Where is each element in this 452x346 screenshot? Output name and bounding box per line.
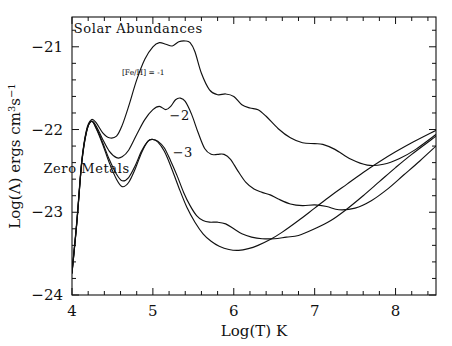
- plot-canvas: 45678Log(T) K−21−22−23−24Log(Λ) ergs cm3…: [0, 0, 452, 346]
- y-tick-label: −21: [31, 38, 63, 56]
- plot-frame: [72, 17, 436, 295]
- curve-4: [72, 121, 436, 273]
- cooling-function-figure: 45678Log(T) K−21−22−23−24Log(Λ) ergs cm3…: [0, 0, 452, 346]
- x-tick-label: 7: [310, 302, 320, 320]
- y-tick-label: −24: [31, 286, 63, 304]
- feh-minus1-label: [Fe/H] = -1: [122, 68, 165, 77]
- x-tick-label: 6: [229, 302, 239, 320]
- y-axis-label: Log(Λ) ergs cm3s−1: [6, 83, 24, 228]
- x-axis-label: Log(T) K: [221, 322, 288, 340]
- x-tick-label: 4: [67, 302, 77, 320]
- curve-label-minus3: −3: [173, 145, 193, 160]
- y-tick-label: −22: [31, 121, 63, 139]
- x-tick-label: 8: [391, 302, 401, 320]
- solar-abundances-label: Solar Abundances: [74, 21, 203, 36]
- curve-3: [72, 121, 436, 272]
- zero-metals-label: Zero Metals: [43, 161, 129, 176]
- y-tick-label: −23: [31, 203, 63, 221]
- svg-text:Log(Λ) ergs cm3s−1: Log(Λ) ergs cm3s−1: [6, 83, 24, 228]
- x-tick-label: 5: [148, 302, 158, 320]
- curve-label-minus2: −2: [169, 108, 189, 123]
